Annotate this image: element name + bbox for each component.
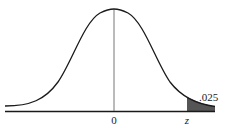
tail-area-label: .025: [199, 91, 219, 103]
normal-curve-diagram: .025 0 z: [0, 0, 227, 128]
center-label: 0: [111, 114, 117, 126]
critical-value-label: z: [184, 114, 190, 126]
bell-curve: [5, 9, 215, 107]
